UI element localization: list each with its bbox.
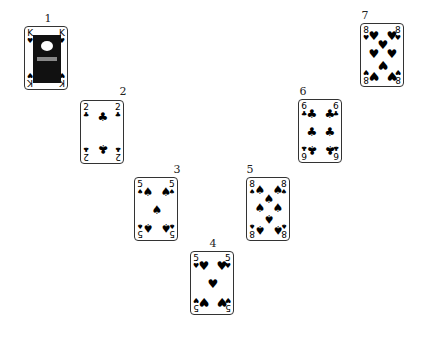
clubs-icon: ♣ (307, 108, 318, 120)
playing-card-2-of-clubs[interactable]: 2♣2♣2♣2♣♣♣ (80, 100, 124, 164)
spades-icon: ♠ (143, 186, 154, 198)
king-face-artwork (33, 35, 61, 83)
spades-icon: ♠ (161, 186, 172, 198)
playing-card-8-of-hearts[interactable]: 8♥8♥8♥8♥♥♥♥♥♥♥♥♥ (360, 23, 404, 87)
hearts-icon: ♥ (199, 296, 210, 308)
card-position-label: 4 (203, 237, 223, 250)
clubs-icon: ♣ (83, 145, 89, 153)
clubs-icon: ♣ (115, 145, 121, 153)
hearts-icon: ♥ (208, 278, 219, 290)
spades-icon: ♠ (255, 224, 266, 236)
hearts-icon: ♥ (387, 70, 398, 82)
hearts-icon: ♥ (199, 260, 210, 272)
spades-icon: ♠ (161, 222, 172, 234)
card-corner-index: 2♣ (83, 103, 89, 119)
card-corner-index: 2♣ (83, 145, 89, 161)
playing-card-5-of-hearts[interactable]: 5♥5♥5♥5♥♥♥♥♥♥ (190, 251, 234, 315)
card-position-label: 3 (167, 163, 187, 176)
clubs-icon: ♣ (98, 111, 109, 123)
spades-icon: ♠ (143, 222, 154, 234)
card-position-label: 7 (355, 9, 375, 22)
clubs-icon: ♣ (98, 143, 109, 155)
rank-label: 2 (83, 152, 89, 162)
clubs-icon: ♣ (325, 126, 336, 138)
clubs-icon: ♣ (325, 108, 336, 120)
card-position-label: 5 (240, 163, 260, 176)
playing-card-5-of-spades[interactable]: 5♠5♠5♠5♠♠♠♠♠♠ (134, 177, 178, 241)
spades-icon: ♠ (273, 224, 284, 236)
hearts-icon: ♥ (369, 70, 380, 82)
clubs-icon: ♣ (115, 111, 121, 119)
card-position-label: 6 (293, 85, 313, 98)
clubs-icon: ♣ (325, 144, 336, 156)
card-corner-index: 2♣ (115, 103, 121, 119)
playing-card-K-of-hearts[interactable]: K♥K♥K♥K♥ (24, 26, 68, 90)
card-corner-index: 2♣ (115, 145, 121, 161)
card-position-label: 2 (113, 85, 133, 98)
clubs-icon: ♣ (83, 111, 89, 119)
spades-icon: ♠ (152, 204, 163, 216)
playing-card-6-of-clubs[interactable]: 6♣6♣6♣6♣♣♣♣♣♣♣ (298, 99, 342, 163)
playing-card-8-of-spades[interactable]: 8♠8♠8♠8♠♠♠♠♠♠♠♠♠ (246, 177, 290, 241)
clubs-icon: ♣ (307, 126, 318, 138)
rank-label: 2 (115, 152, 121, 162)
hearts-icon: ♥ (217, 260, 228, 272)
hearts-icon: ♥ (217, 296, 228, 308)
card-position-label: 1 (38, 12, 58, 25)
clubs-icon: ♣ (307, 144, 318, 156)
